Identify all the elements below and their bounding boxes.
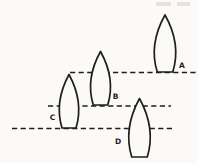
boat-A-label: A bbox=[179, 61, 185, 70]
boat-C-shape bbox=[59, 75, 78, 129]
boat-C-label: C bbox=[50, 113, 56, 122]
boat-B-shape bbox=[91, 52, 111, 106]
boat-A-shape bbox=[154, 15, 175, 72]
boat-B-label: B bbox=[113, 92, 119, 101]
boats-layer bbox=[59, 15, 175, 157]
boat-D-label: D bbox=[115, 137, 121, 146]
print-artifact-mark-2 bbox=[177, 2, 190, 6]
print-artifact-mark-1 bbox=[156, 2, 171, 6]
boats-waterlines-figure: ABCD bbox=[0, 0, 198, 163]
scanned-diagram-page: ABCD bbox=[0, 0, 198, 163]
print-artifact-layer bbox=[156, 2, 190, 6]
boat-D-shape bbox=[129, 99, 150, 158]
